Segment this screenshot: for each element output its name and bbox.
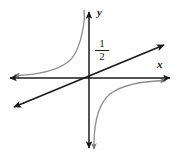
y-intercept-fraction-label: 1 2 — [94, 38, 110, 62]
math-graph-figure: y x 1 2 — [0, 0, 180, 160]
fraction-numerator: 1 — [94, 38, 110, 50]
hyperbola-branch-upper-left — [14, 18, 85, 76]
y-axis-label: y — [97, 7, 102, 18]
x-axis-label: x — [157, 59, 163, 70]
fraction-denominator: 2 — [94, 51, 110, 63]
coordinate-graph — [0, 0, 180, 160]
hyperbola-branch-lower-right — [94, 81, 166, 143]
hyperbola-asymptote-tail-top — [84, 10, 85, 18]
